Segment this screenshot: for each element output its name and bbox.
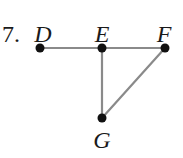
vertex-g [98,114,107,123]
vertex-label-d: D [34,22,51,46]
graph-canvas [0,0,183,158]
edges-group [40,48,165,118]
vertex-label-f: F [157,22,172,46]
edge-fg [102,48,165,118]
vertex-label-g: G [93,128,110,152]
vertex-label-e: E [95,22,110,46]
